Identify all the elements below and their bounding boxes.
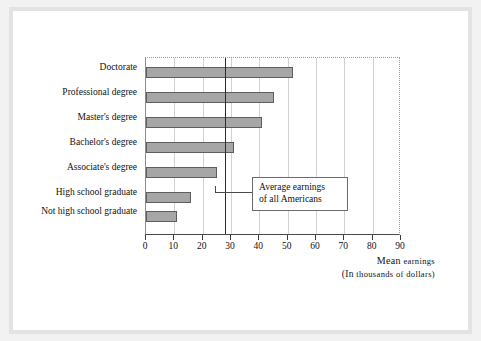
bar-associates-degree [146,167,217,178]
category-label-masters-degree: Master's degree [78,111,137,123]
x-axis-title-word-mean: Mean [377,255,401,266]
xtick-label-90: 90 [385,241,415,251]
bar-row-not-high-school-graduate [146,204,177,228]
category-label-professional-degree: Professional degree [62,86,137,98]
xtick-label-60: 60 [300,241,330,251]
category-label-not-high-school-graduate: Not high school graduate [41,205,137,217]
bar-row-associates-degree [146,160,217,184]
xtick-label-30: 30 [215,241,245,251]
xtick-20 [202,235,203,240]
chart-page: Doctorate Professional degree Master's d… [0,0,481,341]
xtick-70 [343,235,344,240]
xtick-50 [287,235,288,240]
bar-row-masters-degree [146,110,262,134]
xtick-label-50: 50 [272,241,302,251]
xtick-label-40: 40 [243,241,273,251]
xtick-60 [315,235,316,240]
xtick-80 [372,235,373,240]
xtick-label-10: 10 [158,241,188,251]
callout-leader-line [215,192,253,193]
bar-not-high-school-graduate [146,211,177,222]
xtick-label-20: 20 [187,241,217,251]
xtick-label-70: 70 [328,241,358,251]
category-label-doctorate: Doctorate [100,61,137,73]
average-earnings-reference-line [225,58,226,234]
x-axis-subtitle-rest: thousands of dollars) [356,269,435,279]
xtick-label-80: 80 [357,241,387,251]
xtick-30 [230,235,231,240]
bar-high-school-graduate [146,192,191,203]
xtick-label-0: 0 [130,241,160,251]
bar-row-professional-degree [146,85,274,109]
category-axis: Doctorate Professional degree Master's d… [0,57,141,235]
bar-row-doctorate [146,60,293,84]
bar-chart: Doctorate Professional degree Master's d… [0,0,481,341]
bar-doctorate [146,67,293,78]
x-axis-title-word-earnings: earnings [403,256,435,266]
xtick-10 [173,235,174,240]
bar-bachelors-degree [146,142,234,153]
xtick-0 [145,235,146,240]
callout-line-1: Average earnings [259,182,341,194]
average-earnings-callout: Average earnings of all Americans [252,177,348,211]
category-label-high-school-graduate: High school graduate [56,186,137,198]
x-axis-subtitle-word-in: (In [342,269,354,279]
x-axis-title: Mean earnings [150,255,435,266]
bar-masters-degree [146,117,262,128]
bar-professional-degree [146,92,274,103]
bar-row-bachelors-degree [146,135,234,159]
category-label-bachelors-degree: Bachelor's degree [70,136,137,148]
category-label-associates-degree: Associate's degree [67,161,137,173]
xtick-40 [258,235,259,240]
xtick-90 [400,235,401,240]
callout-line-2: of all Americans [259,194,341,206]
x-axis-subtitle: (In thousands of dollars) [150,269,435,279]
